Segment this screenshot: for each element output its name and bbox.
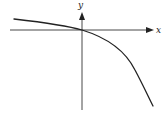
- function-curve: [14, 19, 153, 106]
- y-axis-arrow-icon: [79, 12, 85, 20]
- x-axis-label: x: [156, 25, 161, 35]
- function-graph: x y: [0, 0, 162, 120]
- y-axis-label: y: [77, 0, 84, 10]
- x-axis-arrow-icon: [146, 27, 154, 33]
